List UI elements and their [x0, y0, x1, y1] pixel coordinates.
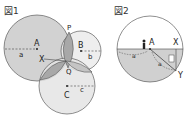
label-point-y-fig2: Y: [177, 71, 183, 80]
label-point-a: A: [34, 39, 40, 48]
figure-1: A B C P Q X a b c: [4, 15, 101, 114]
label-point-q: Q: [66, 68, 72, 76]
label-radius-a2: a: [158, 60, 162, 67]
label-radius-b: b: [88, 53, 93, 61]
box-indicator: [169, 55, 174, 62]
label-radius-a1: a: [132, 52, 136, 59]
label-radius-a: a: [19, 51, 23, 59]
label-point-x-fig2: X: [173, 38, 179, 47]
lower-half-circle: [117, 49, 183, 82]
person-icon: [143, 40, 146, 50]
label-point-p: P: [67, 24, 71, 32]
label-point-a-fig2: A: [149, 38, 155, 47]
label-point-x: X: [39, 55, 45, 64]
label-point-c: C: [64, 91, 70, 100]
label-point-b: B: [78, 41, 84, 50]
diagram-canvas: A B C P Q X a b c A X Y a a: [0, 0, 186, 117]
figure-2: A X Y a a: [117, 16, 183, 82]
label-radius-c: c: [80, 86, 84, 94]
